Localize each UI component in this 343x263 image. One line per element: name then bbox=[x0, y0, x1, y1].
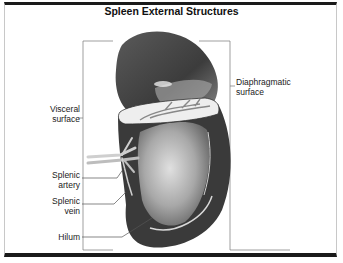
hilum-label: Hilum bbox=[40, 232, 80, 242]
splenic-artery-label: Splenicartery bbox=[40, 170, 80, 190]
visceral-bracket bbox=[78, 41, 113, 250]
visceral-surface-label: Visceralsurface bbox=[40, 104, 80, 124]
diaphragmatic-surface-label: Diaphragmaticsurface bbox=[236, 77, 291, 97]
spleen-illustration bbox=[0, 0, 343, 263]
vein-leader bbox=[82, 192, 126, 204]
splenic-vein-label: Splenicvein bbox=[40, 196, 80, 216]
artery-leader bbox=[82, 168, 124, 178]
